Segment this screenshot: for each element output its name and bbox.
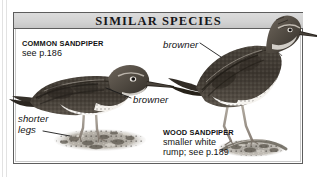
common-sandpiper-name: COMMON SANDPIPER <box>22 39 104 48</box>
similar-species-figure: SIMILAR SPECIES <box>0 0 317 177</box>
wood-sandpiper-name: WOOD SANDPIPER <box>163 128 234 137</box>
common-sandpiper-page-ref: see p.186 <box>22 48 62 58</box>
wood-sandpiper-detail-line1: smaller white <box>163 137 216 147</box>
annotation-browner-right: browner <box>163 39 198 50</box>
annotation-shorter-legs: shorter legs <box>18 113 49 135</box>
similar-species-panel <box>13 12 303 164</box>
panel-header-title: SIMILAR SPECIES <box>0 14 317 29</box>
annotation-browner-left: browner <box>133 94 168 105</box>
wood-sandpiper-detail-line2: rump; see p.189 <box>163 147 229 157</box>
annotation-shorter-legs-line1: shorter <box>18 113 49 124</box>
annotation-shorter-legs-line2: legs <box>18 124 49 135</box>
